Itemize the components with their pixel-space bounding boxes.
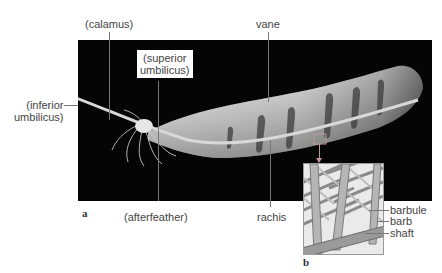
leader-vane [268,32,269,102]
label-superior-umbilicus: (superior umbilicus) [137,50,193,78]
label-calamus: (calamus) [85,18,133,30]
barb-structure-illustration [304,164,383,254]
leader-shaft [364,233,389,234]
leader-calamus [109,32,110,120]
leader-barbule [369,210,389,211]
leader-rachis [270,140,271,207]
label-superior-umbilicus-line2: umbilicus) [140,64,190,76]
leader-barb [377,221,389,222]
label-superior-umbilicus-line1: (superior [140,52,190,64]
barb-structure-inset [303,163,384,255]
label-inferior-umbilicus-line1: (inferior [14,99,64,111]
label-barb: barb [390,215,412,227]
label-rachis: rachis [257,211,286,223]
leader-superior-umbilicus [158,81,159,201]
label-inferior-umbilicus: (inferior umbilicus) [14,99,64,123]
label-vane: vane [256,18,280,30]
label-inferior-umbilicus-line2: umbilicus) [14,111,64,123]
inset-arrow-icon [316,158,322,163]
leader-inferior-umbilicus [64,105,78,106]
label-shaft: shaft [390,227,414,239]
panel-letter-b: b [303,256,309,268]
panel-letter-a: a [82,207,88,219]
label-afterfeather: (afterfeather) [124,211,188,223]
